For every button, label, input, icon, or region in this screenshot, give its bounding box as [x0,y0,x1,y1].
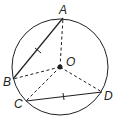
label-d: D [104,89,113,103]
radius-ob [13,67,60,79]
label-b: B [3,75,11,89]
radius-od [60,67,102,92]
label-o: O [66,55,75,69]
circle-diagram: A B C D O [0,0,117,116]
chord-ab [13,18,63,79]
tick-mark-cd [63,93,64,100]
radius-oa [60,18,63,67]
center-point [58,65,63,70]
radius-oc [26,67,60,101]
label-a: A [58,3,67,17]
label-c: C [14,97,23,111]
